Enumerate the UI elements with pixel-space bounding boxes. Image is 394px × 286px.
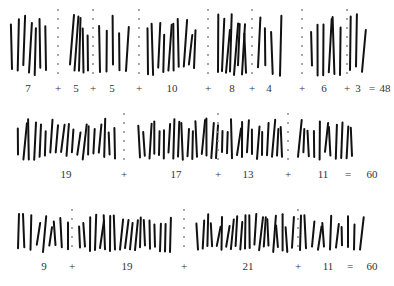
tally-stroke — [234, 24, 238, 75]
tally-stroke — [203, 221, 205, 249]
separator-dot — [301, 9, 303, 11]
equals-sign: = — [369, 82, 375, 94]
tally-stroke — [195, 121, 197, 156]
group-count-label: 17 — [171, 168, 183, 180]
tally-stroke — [125, 220, 129, 248]
tally-row-2: 19171311+++=60 — [18, 113, 378, 180]
separator-dot — [346, 36, 348, 38]
tally-stroke — [311, 32, 312, 66]
separator-dot — [346, 72, 348, 74]
separator-dot — [297, 236, 299, 238]
plus-operator: + — [205, 82, 211, 94]
tally-stroke — [188, 129, 190, 156]
tally-stroke — [227, 132, 228, 153]
separator-dot — [217, 122, 219, 124]
tally-stroke — [152, 24, 154, 75]
group-count-label: 9 — [41, 260, 47, 272]
separator-dot — [251, 72, 253, 74]
tally-stroke — [245, 215, 246, 248]
tally-stroke — [140, 217, 141, 247]
tally-stroke — [104, 119, 105, 157]
tally-stroke — [360, 217, 364, 249]
tally-stroke — [217, 227, 221, 246]
separator-dot — [92, 72, 94, 74]
tally-stroke — [138, 126, 140, 158]
separator-dot — [183, 245, 185, 247]
tally-stroke — [271, 32, 273, 74]
tally-group — [222, 119, 282, 159]
tally-stroke — [18, 19, 19, 70]
plus-operator: + — [285, 168, 291, 180]
dotted-separator — [138, 9, 140, 74]
separator-dot — [138, 36, 140, 38]
group-count-label: 8 — [229, 82, 235, 94]
separator-dot — [57, 18, 59, 20]
tally-stroke — [192, 131, 193, 159]
tally-stroke — [83, 125, 87, 160]
tally-stroke — [336, 125, 337, 159]
tally-stroke — [236, 216, 238, 246]
separator-dot — [92, 54, 94, 56]
tally-stroke — [231, 119, 232, 158]
plus-operator: + — [69, 260, 75, 272]
tally-stroke — [43, 216, 46, 252]
tally-stroke — [286, 227, 288, 252]
tally-group — [70, 15, 88, 72]
separator-dot — [207, 45, 209, 47]
tally-group — [218, 14, 246, 75]
dotted-separator — [57, 9, 59, 74]
tally-stroke — [340, 28, 341, 75]
plus-operator: + — [55, 82, 61, 94]
tally-stroke — [70, 15, 74, 64]
separator-dot — [346, 27, 348, 29]
tally-stroke — [207, 214, 208, 246]
tally-stroke — [333, 17, 335, 74]
tally-stroke — [37, 223, 40, 245]
tally-stroke — [95, 215, 96, 250]
separator-dot — [297, 227, 299, 229]
separator-dot — [57, 36, 59, 38]
dotted-separator — [346, 9, 348, 74]
tally-stroke — [336, 224, 339, 248]
separator-dot — [57, 9, 59, 11]
tally-stroke — [211, 123, 214, 158]
group-count-label: 11 — [323, 260, 334, 272]
dotted-separator — [207, 9, 209, 74]
separator-dot — [207, 9, 209, 11]
separator-dot — [346, 45, 348, 47]
plus-operator: + — [299, 82, 305, 94]
separator-dot — [183, 209, 185, 211]
tally-stroke — [267, 219, 268, 245]
separator-dot — [346, 9, 348, 11]
plus-operator: + — [181, 260, 187, 272]
tally-stroke — [83, 223, 85, 247]
dotted-separator — [123, 113, 125, 160]
tally-stroke — [158, 23, 160, 68]
tally-stroke — [222, 131, 223, 152]
tally-stroke — [237, 129, 241, 156]
separator-dot — [207, 27, 209, 29]
separator-dot — [346, 18, 348, 20]
group-count-label: 10 — [167, 82, 179, 94]
separator-dot — [71, 236, 73, 238]
separator-dot — [138, 18, 140, 20]
separator-dot — [217, 131, 219, 133]
tally-stroke — [40, 125, 41, 157]
separator-dot — [301, 36, 303, 38]
group-count-label: 5 — [73, 82, 79, 94]
separator-dot — [71, 218, 73, 220]
separator-dot — [57, 63, 59, 65]
tally-stroke — [77, 133, 80, 155]
plus-operator: + — [90, 82, 96, 94]
tally-stroke — [211, 223, 212, 246]
tally-stroke — [93, 129, 94, 153]
separator-dot — [207, 54, 209, 56]
tally-stroke — [230, 14, 232, 71]
tally-group — [79, 215, 171, 252]
tally-stroke — [114, 216, 115, 250]
separator-dot — [301, 18, 303, 20]
separator-dot — [123, 131, 125, 133]
tally-stroke — [160, 224, 161, 252]
equals-sign: = — [347, 260, 353, 272]
tally-diagram: 755108463+++++++=4819171311+++=609192111… — [0, 0, 394, 286]
